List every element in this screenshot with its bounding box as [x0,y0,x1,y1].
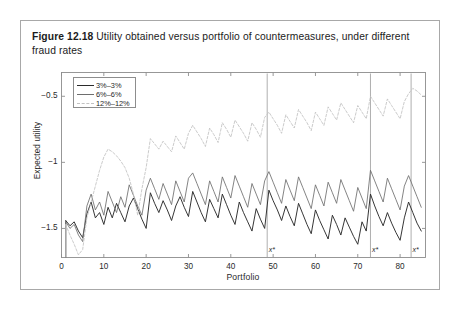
figure-caption: Figure 12.18 Utility obtained versus por… [32,30,427,58]
figure-caption-label: Figure 12.18 [32,31,93,42]
figure-card: Figure 12.18 Utility obtained versus por… [20,20,440,290]
